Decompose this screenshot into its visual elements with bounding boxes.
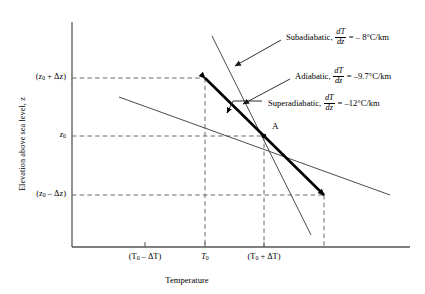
annotation-adiabatic-fraction: dTdz <box>333 67 344 85</box>
y-tick-label-z0-plus-dz: (z0 + Δz) <box>0 73 66 82</box>
annotation-adiabatic: Adiabatic, dTdz = –9.7°C/km <box>295 67 391 85</box>
ytick-rest-2: – Δz) <box>46 189 66 198</box>
point-a-marker <box>262 134 267 139</box>
leader-subadiabatic <box>235 40 281 66</box>
annotation-adiabatic-value: = –9.7°C/km <box>345 71 392 81</box>
ytick-rest-0: + Δz) <box>45 72 66 81</box>
y-tick-label-z0: z0 <box>0 131 66 140</box>
annotation-adiabatic-text: Adiabatic, <box>295 71 333 81</box>
lapse-rate-diagram: Elevation above sea level, z Temperature… <box>0 0 425 294</box>
x-axis-title: Temperature <box>122 276 252 285</box>
annotation-subadiabatic-text: Subadiabatic, <box>286 32 335 42</box>
annotation-superadiabatic: Superadiabatic, dTdz = –12°C/km <box>268 94 380 112</box>
point-a-label: A <box>272 122 279 131</box>
ytick-sub-1: 0 <box>63 133 66 139</box>
y-axis-title: Elevation above sea level, z <box>19 59 27 229</box>
xtick-rest-0: – ΔT) <box>140 252 162 261</box>
annotation-superadiabatic-fraction: dTdz <box>324 94 335 112</box>
annotation-subadiabatic-fraction: dTdz <box>335 28 346 46</box>
annotation-superadiabatic-text: Superadiabatic, <box>268 98 323 108</box>
y-tick-label-z0-minus-dz: (z0 – Δz) <box>0 190 66 199</box>
axis-lines <box>72 22 410 247</box>
x-tick-label-t0-minus-dt: (T0 – ΔT) <box>110 253 180 262</box>
xtick-sub-1: 0 <box>206 255 209 261</box>
annotation-superadiabatic-value: = –12°C/km <box>335 98 380 108</box>
annotation-subadiabatic-value: = – 8°C/km <box>347 32 389 42</box>
xtick-rest-2: + ΔT) <box>258 252 280 261</box>
x-tick-label-t0-plus-dt: (T0 + ΔT) <box>229 253 299 262</box>
x-tick-label-t0: T0 <box>180 253 230 262</box>
xtick-main-0: (T <box>129 252 137 261</box>
annotation-subadiabatic: Subadiabatic, dTdz = – 8°C/km <box>286 28 389 46</box>
